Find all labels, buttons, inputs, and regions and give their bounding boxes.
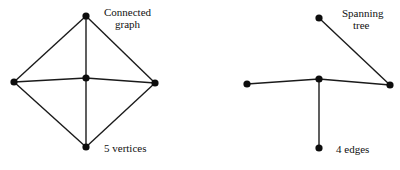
edges-caption: 4 edges — [336, 143, 369, 155]
edge — [14, 16, 86, 82]
edge — [86, 83, 155, 147]
vertex — [10, 78, 17, 85]
vertex — [315, 144, 322, 151]
spanning-tree: Spanning tree 4 edges — [243, 7, 393, 155]
vertex — [315, 75, 322, 82]
vertex — [315, 14, 322, 21]
graph-diagram: Connected graph 5 vertices Spanning tree… — [0, 0, 400, 170]
vertex — [82, 12, 89, 19]
edge — [247, 79, 319, 84]
vertex — [82, 143, 89, 150]
spanning-tree-title-line2: tree — [353, 19, 370, 31]
edge — [14, 78, 86, 82]
connected-graph-title-line2: graph — [115, 18, 141, 30]
connected-graph-title-line1: Connected — [104, 6, 152, 18]
vertex — [82, 74, 89, 81]
connected-graph: Connected graph 5 vertices — [10, 6, 158, 154]
edge — [14, 82, 86, 147]
edge — [86, 78, 155, 83]
vertex — [243, 80, 250, 87]
edge — [319, 79, 390, 85]
vertex — [151, 79, 158, 86]
vertex — [386, 81, 393, 88]
spanning-tree-title-line1: Spanning — [342, 7, 384, 19]
vertices-caption: 5 vertices — [104, 142, 146, 154]
